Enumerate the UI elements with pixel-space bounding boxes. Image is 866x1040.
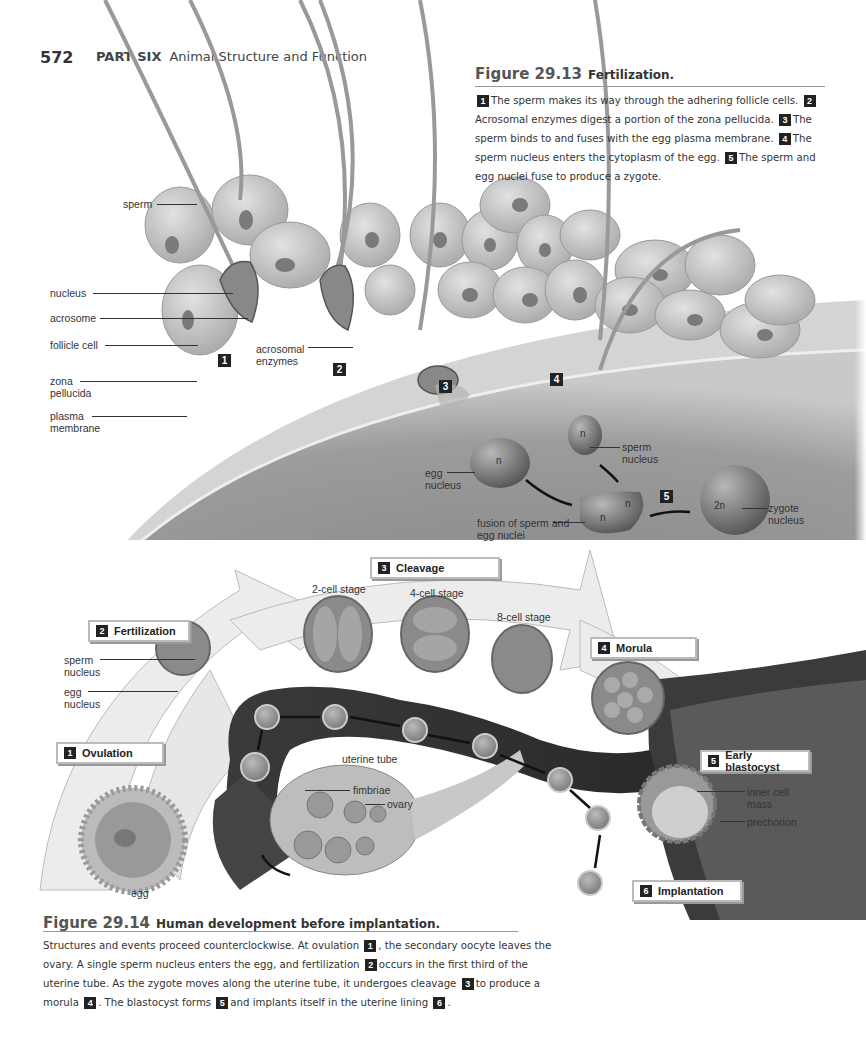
step-number: 1 [64,747,76,759]
leader-line [105,345,198,346]
label-sperm-nucleus: sperm nucleus [64,654,109,678]
step-label: Morula [616,642,652,654]
label-n-sperm: n [580,428,586,440]
leader-line [88,691,178,692]
leader-line [80,381,197,382]
step-number: 2 [96,625,108,637]
figure-number: Figure 29.14 [43,914,150,932]
label-zona-pellucida: zona pellucida [50,375,110,399]
step-number: 4 [598,642,610,654]
label-fusion: fusion of sperm and egg nuclei [477,517,577,541]
leader-line [697,791,745,792]
caption-text: Structures and events proceed counterclo… [43,940,359,951]
label-plasma-membrane: plasma membrane [50,410,110,434]
label-8-cell-stage: 8-cell stage [497,611,551,623]
step-box-cleavage: 3Cleavage [370,557,500,579]
step-marker: 3 [462,978,474,990]
step-box-early-blastocyst: 5Early blastocyst [700,750,810,772]
title-rule [475,86,825,87]
step-marker: 2 [365,959,377,971]
figure-29-13-title: Figure 29.13Fertilization. [475,64,674,83]
step-label: Implantation [658,885,723,897]
step-marker: 1 [477,95,489,107]
step-marker-2: 2 [333,363,346,376]
step-label: Fertilization [114,625,176,637]
step-label: Ovulation [82,747,133,759]
caption-text: The sperm makes its way through the adhe… [491,95,798,106]
label-ovary: ovary [387,798,413,810]
leader-line [365,804,385,805]
label-n-egg: n [496,455,502,467]
label-inner-cell-mass: inner cell mass [747,786,797,810]
label-prechorion: prechorion [747,816,797,828]
step-number: 6 [640,885,652,897]
caption-text: and implants itself in the uterine linin… [230,997,428,1008]
step-box-implantation: 6Implantation [632,880,742,902]
step-box-fertilization: 2Fertilization [88,620,190,642]
leader-line [742,508,767,509]
step-marker: 1 [364,940,376,952]
label-fimbriae: fimbriae [353,784,390,796]
caption-text: . The blastocyst forms [98,997,211,1008]
step-marker-5: 5 [660,490,673,503]
leader-line [447,472,475,473]
figure-29-14-title: Figure 29.14Human development before imp… [43,913,440,932]
step-marker: 2 [804,95,816,107]
leader-line [308,347,353,348]
step-number: 3 [378,562,390,574]
step-marker: 4 [779,133,791,145]
step-label: Early blastocyst [725,749,804,773]
leader-line [553,522,585,523]
step-number: 5 [708,755,719,767]
label-sperm: sperm [123,198,152,210]
leader-line [92,416,187,417]
step-marker: 3 [779,114,791,126]
label-egg: egg [131,887,149,899]
step-marker: 5 [216,997,228,1009]
leader-line [157,204,197,205]
step-label: Cleavage [396,562,444,574]
label-zygote-nucleus: zygote nucleus [768,502,818,526]
leader-line [100,659,195,660]
leader-line [590,447,620,448]
label-4-cell-stage: 4-cell stage [410,587,464,599]
title-rule [43,931,518,932]
figure-29-14-caption: Structures and events proceed counterclo… [43,936,563,1012]
step-box-ovulation: 1Ovulation [56,742,164,764]
development-illustration [0,550,866,920]
step-box-morula: 4Morula [590,637,697,659]
leader-line [93,293,233,294]
label-uterine-tube: uterine tube [342,753,397,765]
leader-line [305,790,350,791]
figure-number: Figure 29.13 [475,65,582,83]
leader-line [100,318,248,319]
label-2-cell-stage: 2-cell stage [312,583,366,595]
figure-29-13-caption: 1The sperm makes its way through the adh… [475,91,835,186]
label-egg-nucleus: egg nucleus [64,686,109,710]
step-marker: 4 [84,997,96,1009]
label-acrosome: acrosome [50,312,96,324]
figure-title: Fertilization. [588,68,674,82]
label-n-fused-2: n [600,512,606,524]
label-2n: 2n [714,500,725,512]
label-follicle-cell: follicle cell [50,339,98,351]
label-sperm-nucleus: sperm nucleus [622,441,667,465]
figure-title: Human development before implantation. [156,917,440,931]
label-nucleus: nucleus [50,287,86,299]
label-egg-nucleus: egg nucleus [425,467,470,491]
caption-text: . [447,997,450,1008]
step-marker: 6 [433,997,445,1009]
caption-text: Acrosomal enzymes digest a portion of th… [475,114,774,125]
label-acrosomal-enzymes: acrosomal enzymes [256,343,316,367]
step-marker-1: 1 [218,354,231,367]
step-marker-4: 4 [550,373,563,386]
step-marker-3: 3 [439,380,452,393]
label-n-fused-1: n [625,498,631,510]
leader-line [720,821,745,822]
step-marker: 5 [725,152,737,164]
